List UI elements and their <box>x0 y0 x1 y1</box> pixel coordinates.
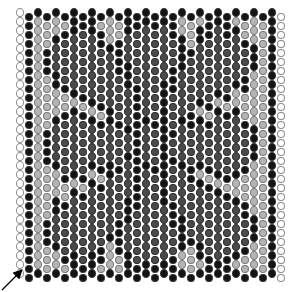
start-arrow-icon <box>0 0 304 292</box>
